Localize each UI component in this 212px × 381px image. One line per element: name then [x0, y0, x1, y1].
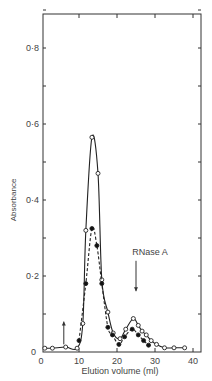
filled-circle-marker: [147, 343, 151, 347]
x-tick-label: 30: [150, 356, 160, 366]
open-circle-marker: [144, 333, 148, 337]
data-series: [43, 135, 187, 350]
solid-line: [45, 135, 185, 350]
open-circle-marker: [140, 329, 144, 333]
filled-circle-marker: [110, 333, 114, 337]
filled-circle-marker: [130, 327, 134, 331]
open-circle-marker: [106, 310, 110, 314]
x-axis-label: Elution volume (ml): [81, 366, 158, 376]
chromatography-chart: 01020304000·20·40·60·8 RNase A Elution v…: [0, 0, 212, 381]
filled-circle-marker: [84, 282, 88, 286]
arrowhead-icon: [62, 322, 66, 326]
filled-circle-marker: [136, 333, 140, 337]
open-circle-marker: [131, 317, 135, 321]
y-tick-label: 0·2: [26, 271, 39, 281]
open-circle-marker: [155, 342, 159, 346]
arrowhead-icon: [134, 287, 138, 291]
open-circle-marker: [183, 346, 187, 350]
open-circle-marker: [172, 346, 176, 350]
y-tick-label: 0·6: [26, 119, 39, 129]
y-tick-label: 0: [31, 347, 36, 357]
open-circle-marker: [149, 339, 153, 343]
x-tick-label: 40: [188, 356, 198, 366]
filled-circle-marker: [95, 244, 99, 248]
y-tick-label: 0·8: [26, 43, 39, 53]
filled-circle-marker: [77, 339, 81, 343]
open-circle-marker: [50, 346, 54, 350]
open-circle-marker: [90, 135, 94, 139]
open-circle-marker: [96, 171, 100, 175]
filled-circle-marker: [123, 335, 127, 339]
x-tick-label: 20: [112, 356, 122, 366]
filled-circle-marker: [100, 282, 104, 286]
filled-circle-marker: [106, 325, 110, 329]
filled-circle-marker: [142, 339, 146, 343]
y-tick-label: 0·4: [26, 195, 39, 205]
open-circle-marker: [84, 228, 88, 232]
open-circle-marker: [124, 327, 128, 331]
x-tick-label: 0: [38, 356, 43, 366]
open-circle-marker: [64, 345, 68, 349]
filled-circle-marker: [117, 342, 121, 346]
open-circle-marker: [118, 337, 122, 341]
rnase-a-label: RNase A: [132, 247, 168, 257]
x-tick-label: 10: [74, 356, 84, 366]
filled-circle-marker: [90, 227, 94, 231]
open-circle-marker: [75, 346, 79, 350]
axes: 01020304000·20·40·60·8: [26, 10, 201, 366]
open-circle-marker: [136, 323, 140, 327]
y-axis-label: Absorbance: [9, 178, 18, 221]
annotations: RNase A: [62, 247, 168, 345]
plot-frame: [43, 14, 201, 352]
open-circle-marker: [43, 346, 47, 350]
open-circle-marker: [163, 346, 167, 350]
